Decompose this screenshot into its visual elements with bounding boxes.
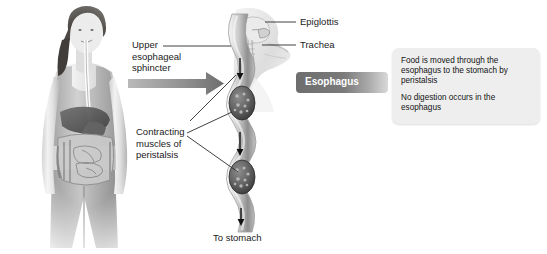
label-upper-esophageal-sphincter: Upper esophageal sphincter bbox=[132, 39, 181, 74]
esophagus-banner: Esophagus bbox=[296, 72, 388, 93]
callout-paragraph-2: No digestion occurs in the esophagus bbox=[401, 93, 533, 113]
label-contracting-muscles: Contracting muscles of peristalsis bbox=[136, 126, 185, 161]
info-callout-box: Food is moved through the esophagus to t… bbox=[392, 48, 540, 124]
diagram-artwork bbox=[0, 0, 547, 254]
callout-paragraph-1: Food is moved through the esophagus to t… bbox=[401, 56, 533, 87]
diagram-canvas: Upper esophageal sphincter Contracting m… bbox=[0, 0, 547, 254]
food-bolus-1 bbox=[229, 86, 255, 120]
food-bolus-2 bbox=[229, 160, 255, 194]
label-to-stomach: To stomach bbox=[213, 232, 262, 244]
banner-label: Esophagus bbox=[305, 76, 359, 87]
leader-contracting-2 bbox=[187, 136, 238, 172]
woman-figure bbox=[28, 0, 146, 254]
label-trachea: Trachea bbox=[300, 39, 335, 51]
label-epiglottis: Epiglottis bbox=[300, 16, 339, 28]
leader-contracting-1 bbox=[187, 112, 232, 133]
